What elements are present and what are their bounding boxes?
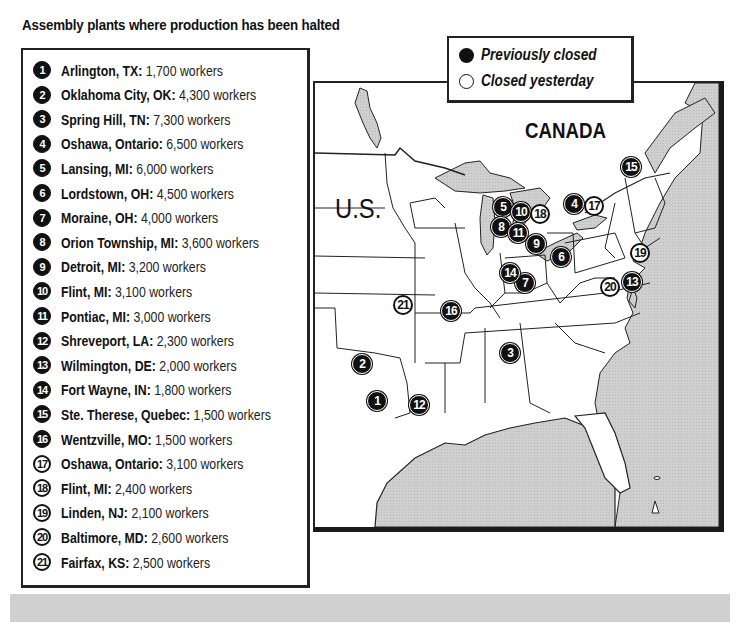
plant-workers: 3,200 workers [129,258,206,275]
plant-location: Shreveport, LA: [61,332,153,349]
plant-location: Arlington, TX: [61,62,142,79]
plant-list-item: 9Detroit, MI: 3,200 workers [33,255,238,279]
plant-entry: Lordstown, OH: 4,500 workers [61,185,234,202]
plant-list-item: 2Oklahoma City, OK: 4,300 workers [33,83,299,107]
us-label: U.S. [335,193,381,225]
plant-location: Linden, NJ: [61,504,128,521]
legend-closed-yesterday: Closed yesterday [459,72,614,90]
map-legend: Previously closed Closed yesterday [447,36,634,103]
map-graphic [315,83,719,527]
legend-previously-closed: Previously closed [459,46,617,64]
plant-number-icon: 10 [33,282,51,300]
plant-workers: 6,000 workers [136,160,213,177]
plant-entry: Baltimore, MD: 2,600 workers [61,529,228,546]
plant-entry: Arlington, TX: 1,700 workers [61,62,223,79]
map-marker-5: 5 [493,197,513,217]
plant-workers: 3,000 workers [133,308,210,325]
plant-location: Lansing, MI: [61,160,133,177]
plant-location: Wilmington, DE: [61,357,156,374]
plant-workers: 2,400 workers [115,480,192,497]
plant-entry: Flint, MI: 3,100 workers [61,283,192,300]
plant-location: Flint, MI: [61,283,112,300]
plant-list-item: 10Flint, MI: 3,100 workers [33,279,221,303]
filled-circle-icon [459,48,474,63]
legend-label: Closed yesterday [481,72,594,90]
plant-workers: 2,300 workers [157,332,234,349]
map-marker-2: 2 [352,354,372,374]
plant-list-item: 20Baltimore, MD: 2,600 workers [33,525,265,549]
plant-list-item: 1Arlington, TX: 1,700 workers [33,58,259,82]
map-marker-17: 17 [584,196,604,216]
plant-workers: 3,100 workers [115,283,192,300]
plant-list-item: 18Flint, MI: 2,400 workers [33,476,221,500]
plant-workers: 2,100 workers [131,504,208,521]
plant-number-icon: 16 [33,430,51,448]
plant-workers: 4,500 workers [157,185,234,202]
map-marker-19: 19 [630,243,650,263]
plant-number-icon: 21 [33,553,51,571]
plant-list-item: 12Shreveport, LA: 2,300 workers [33,329,272,353]
legend-label: Previously closed [481,46,597,64]
plant-list-item: 7Moraine, OH: 4,000 workers [33,206,253,230]
map-marker-12: 12 [409,395,429,415]
plant-location: Pontiac, MI: [61,308,130,325]
plant-entry: Wentzville, MO: 1,500 workers [61,431,232,448]
plant-number-icon: 3 [33,110,51,128]
plant-number-icon: 19 [33,504,51,522]
plant-number-icon: 12 [33,332,51,350]
plant-location: Wentzville, MO: [61,431,152,448]
map-marker-20: 20 [600,277,620,297]
plant-location: Oshawa, Ontario: [61,455,163,472]
plant-number-icon: 7 [33,209,51,227]
plant-location: Ste. Therese, Quebec: [61,406,190,423]
plant-location: Spring Hill, TN: [61,111,150,128]
plant-location: Fort Wayne, IN: [61,381,151,398]
plant-location: Flint, MI: [61,480,112,497]
plant-list-item: 15Ste. Therese, Quebec: 1,500 workers [33,402,317,426]
plant-workers: 6,500 workers [166,135,243,152]
plant-list-item: 17Oshawa, Ontario: 3,100 workers [33,452,284,476]
plant-number-icon: 17 [33,455,51,473]
plant-entry: Shreveport, LA: 2,300 workers [61,332,234,349]
map-marker-13: 13 [622,272,642,292]
map-marker-18: 18 [530,204,550,224]
plant-number-icon: 18 [33,479,51,497]
plant-entry: Oshawa, Ontario: 3,100 workers [61,455,244,472]
map-title: Assembly plants where production has bee… [22,16,340,34]
plant-location: Moraine, OH: [61,209,138,226]
plant-entry: Moraine, OH: 4,000 workers [61,209,218,226]
plant-workers: 2,600 workers [151,529,228,546]
plant-list-item: 16Wentzville, MO: 1,500 workers [33,427,270,451]
plant-number-icon: 2 [33,86,51,104]
plant-list-item: 19Linden, NJ: 2,100 workers [33,501,241,525]
plant-number-icon: 5 [33,159,51,177]
plant-workers: 1,700 workers [146,62,223,79]
plant-location: Fairfax, KS: [61,554,129,571]
plant-number-icon: 8 [33,233,51,251]
plant-list-item: 6Lordstown, OH: 4,500 workers [33,181,272,205]
plant-number-icon: 6 [33,184,51,202]
map-marker-11: 11 [508,223,528,243]
plant-entry: Detroit, MI: 3,200 workers [61,258,206,275]
plant-entry: Spring Hill, TN: 7,300 workers [61,111,231,128]
plant-location: Detroit, MI: [61,258,125,275]
plant-list-item: 3Spring Hill, TN: 7,300 workers [33,107,268,131]
plant-list-item: 11Pontiac, MI: 3,000 workers [33,304,244,328]
plant-list-item: 5Lansing, MI: 6,000 workers [33,156,247,180]
plant-number-icon: 15 [33,405,51,423]
plant-location: Oklahoma City, OK: [61,86,176,103]
plant-location: Oshawa, Ontario: [61,135,163,152]
plant-workers: 1,500 workers [194,406,271,423]
plant-entry: Lansing, MI: 6,000 workers [61,160,213,177]
plant-location: Baltimore, MD: [61,529,148,546]
plant-workers: 1,500 workers [155,431,232,448]
plant-list-item: 21Fairfax, KS: 2,500 workers [33,550,243,574]
plant-entry: Oshawa, Ontario: 6,500 workers [61,135,244,152]
plant-list-item: 4Oshawa, Ontario: 6,500 workers [33,132,284,156]
plant-number-icon: 1 [33,61,51,79]
plant-workers: 2,500 workers [133,554,210,571]
plant-list: 1Arlington, TX: 1,700 workers2Oklahoma C… [21,48,310,588]
plant-entry: Pontiac, MI: 3,000 workers [61,308,211,325]
map-marker-1: 1 [367,391,387,411]
plant-workers: 1,800 workers [154,381,231,398]
